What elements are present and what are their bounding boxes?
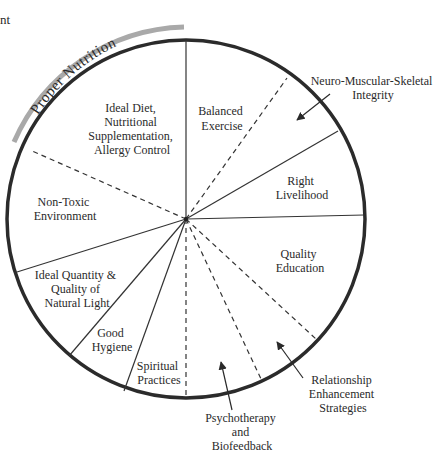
- wellness-wheel-diagram: nt Proper Nutrition Ideal Diet, Nutritio…: [0, 0, 437, 457]
- segment-label-natural-light: Ideal Quantity & Quality of Natural Ligh…: [35, 268, 119, 310]
- callout-label-neuro-muscular-skeletal: Neuro-Muscular-Skeletal Integrity: [311, 74, 436, 102]
- corner-text-fragment: nt: [0, 12, 11, 27]
- callout-label-psychotherapy-biofeedback: Psychotherapy and Biofeedback: [205, 411, 279, 453]
- callout-arrow-psychotherapy-biofeedback: [221, 362, 232, 410]
- dashed-spokes: [30, 78, 316, 398]
- center-point: [184, 217, 188, 221]
- segment-label-balanced-exercise: Balanced Exercise: [198, 104, 246, 133]
- segment-label-spiritual-practices: Spiritual Practices: [137, 359, 181, 387]
- segment-label-non-toxic-environment: Non-Toxic Environment: [34, 195, 97, 223]
- segment-label-ideal-diet: Ideal Diet, Nutritional Supplementation,…: [88, 101, 175, 157]
- segment-label-quality-education: Quality Education: [276, 247, 325, 275]
- callout-label-relationship-enhancement: Relationship Enhancement Strategies: [309, 373, 377, 415]
- segment-label-right-livelihood: Right Livelihood: [276, 174, 329, 202]
- segment-label-good-hygiene: Good Hygiene: [92, 326, 133, 354]
